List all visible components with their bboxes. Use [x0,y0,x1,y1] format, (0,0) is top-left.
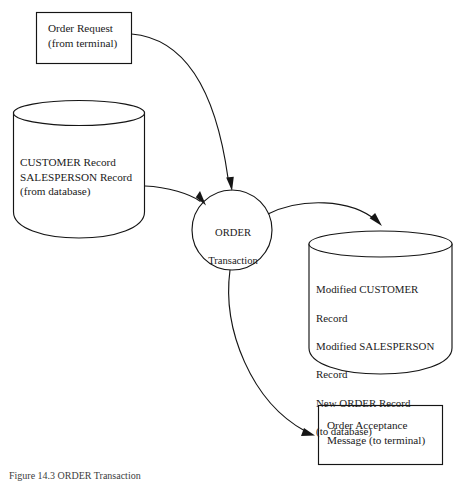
output-store-line-4: Record [316,367,454,381]
process-subtitle: Transaction [196,254,270,268]
data-flow-diagram: Order Request (from terminal) CUSTOMER R… [0,0,465,484]
process-name: ORDER [196,226,270,240]
node-output-store-top [309,231,452,257]
flow-process-to-message [229,270,305,431]
flow-request-to-process-arrowhead [226,177,234,191]
label-order-transaction: ORDER Transaction [196,212,270,282]
output-store-line-1: Modified CUSTOMER [316,282,454,296]
label-order-request: Order Request (from terminal) [48,21,144,50]
label-customer-store: CUSTOMER Record SALESPERSON Record (from… [20,155,155,199]
figure-caption: Figure 14.3 ORDER Transaction [9,470,309,481]
node-customer-store-top [14,101,145,126]
flow-store-to-process-arrowhead [196,191,206,206]
output-store-line-5: New ORDER Record [316,396,454,410]
output-store-line-2: Record [316,311,454,325]
label-acceptance-message: Order Acceptance Message (to terminal) [327,418,441,447]
flow-process-to-store [268,203,377,221]
flow-process-to-message-arrowhead [301,428,315,436]
flow-process-to-store-arrowhead [370,213,382,226]
output-store-line-3: Modified SALESPERSON [316,339,454,353]
